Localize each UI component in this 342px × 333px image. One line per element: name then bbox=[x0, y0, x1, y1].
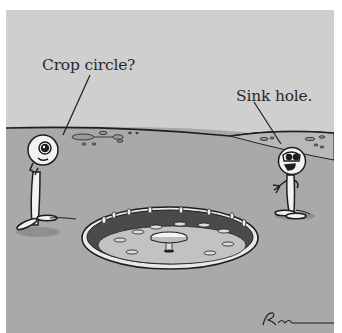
caption-sink-hole: Sink hole. bbox=[236, 87, 312, 105]
caption-crop-circle: Crop circle? bbox=[42, 56, 135, 74]
cartoon-scene: Crop circle? Sink hole. bbox=[0, 0, 342, 333]
cartoon-panel: Crop circle? Sink hole. bbox=[6, 10, 334, 333]
drain-strainer bbox=[82, 207, 258, 269]
speech-line-left bbox=[63, 75, 90, 135]
